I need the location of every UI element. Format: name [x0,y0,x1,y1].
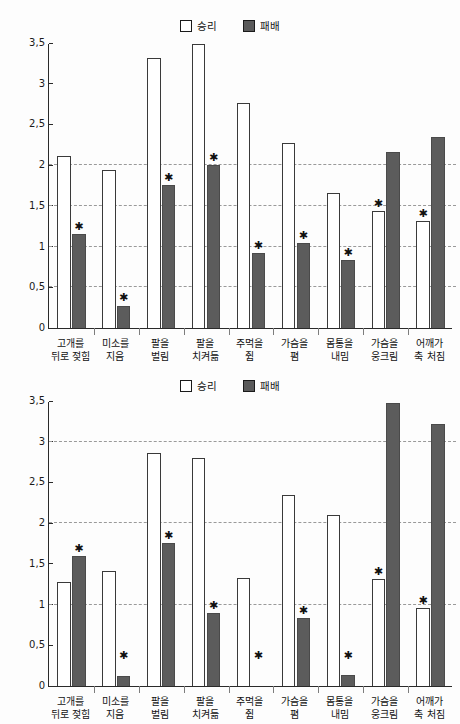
legend-swatch-win-icon [180,20,192,32]
significance-star: ✱ [162,530,175,541]
bar-lose [207,613,220,686]
significance-star: ✱ [297,230,310,241]
x-axis-group-separator [273,686,274,693]
x-axis-group-separator [94,686,95,693]
x-axis-label: 팔을 치켜듦 [183,338,228,363]
bar-lose [72,556,85,686]
x-axis-label: 어깨가 축 처짐 [407,696,452,721]
bar-win [147,453,160,686]
y-axis-tick-label: 1,5 [29,200,49,210]
significance-star: ✱ [117,650,130,661]
bar-lose [386,152,399,328]
x-axis-labels-bottom: 고개를 뒤로 젖힘미소를 지음팔을 벌림팔을 치켜듦주먹을 쥠가슴을 폄몸통을 … [48,694,460,724]
significance-star: ✱ [372,198,385,209]
legend-item-lose: 패배 [243,380,280,392]
legend-item-lose: 패배 [243,20,280,32]
plot-axes-top: 00,511,522,533,5✱✱✱✱✱✱✱✱✱ [48,44,452,329]
y-axis-tick-mark [49,328,53,329]
y-axis-tick-label: 0 [39,681,49,691]
x-axis-group-separator [408,328,409,335]
bar-win [372,211,385,328]
y-axis-tick-label: 2 [39,160,49,170]
x-axis-label: 몸통을 내밈 [317,696,362,721]
x-axis-label: 가슴을 웅크림 [362,696,407,721]
legend-label-lose: 패배 [260,21,280,32]
bar-lose [431,424,444,686]
significance-star: ✱ [72,543,85,554]
x-axis-group-separator [94,328,95,335]
x-axis-label: 가슴을 웅크림 [362,338,407,363]
chart-legend-bottom: 승리 패배 [0,378,460,394]
chart-panel-top: 승리 패배 00,511,522,533,5✱✱✱✱✱✱✱✱✱ 고개를 뒤로 젖… [0,0,460,370]
bar-win [237,103,250,328]
bar-win [57,582,70,686]
x-axis-label: 팔을 벌림 [138,338,183,363]
bar-win [416,608,429,686]
x-axis-label: 가슴을 폄 [272,338,317,363]
y-axis-tick-mark [49,482,53,483]
bar-lose [72,234,85,328]
x-axis-label: 팔을 치켜듦 [183,696,228,721]
significance-star: ✱ [416,595,429,606]
bar-lose [117,306,130,328]
significance-star: ✱ [341,650,354,661]
bar-win [192,458,205,686]
x-axis-group-separator [363,328,364,335]
significance-star: ✱ [252,650,265,661]
bar-lose [386,403,399,686]
legend-swatch-win-icon [180,380,192,392]
legend-item-win: 승리 [180,380,217,392]
x-axis-group-separator [229,686,230,693]
chart-panel-bottom: 승리 패배 00,511,522,533,5✱✱✱✱✱✱✱✱✱ 고개를 뒤로 젖… [0,370,460,724]
figure-page: 승리 패배 00,511,522,533,5✱✱✱✱✱✱✱✱✱ 고개를 뒤로 젖… [0,0,460,724]
bar-lose [117,676,130,686]
x-axis-label: 주먹을 쥠 [228,696,273,721]
x-axis-group-separator [408,686,409,693]
bar-lose [252,253,265,328]
bar-win [102,170,115,328]
y-axis-tick-label: 1,5 [29,558,49,568]
significance-star: ✱ [252,240,265,251]
legend-label-win: 승리 [197,381,217,392]
bar-lose [162,543,175,686]
plot-axes-bottom: 00,511,522,533,5✱✱✱✱✱✱✱✱✱ [48,402,452,687]
y-axis-tick-label: 0,5 [29,640,49,650]
plot-area-top: 00,511,522,533,5✱✱✱✱✱✱✱✱✱ [48,44,452,329]
significance-star: ✱ [372,566,385,577]
y-axis-tick-mark [49,563,53,564]
bar-lose [162,185,175,328]
y-axis-tick-mark [49,124,53,125]
x-axis-label: 몸통을 내밈 [317,338,362,363]
x-axis-label: 팔을 벌림 [138,696,183,721]
x-axis-group-separator [318,328,319,335]
bar-win [327,193,340,328]
x-axis-label: 미소를 지음 [93,338,138,363]
bar-win [282,143,295,328]
x-axis-group-separator [229,328,230,335]
bar-win [147,58,160,328]
bar-win [282,495,295,686]
significance-star: ✱ [117,292,130,303]
y-axis-tick-label: 3 [39,78,49,88]
legend-label-lose: 패배 [260,381,280,392]
y-axis-tick-label: 3,5 [29,38,49,48]
significance-star: ✱ [341,247,354,258]
bar-win [327,515,340,686]
significance-star: ✱ [72,221,85,232]
x-axis-group-separator [184,686,185,693]
significance-star: ✱ [207,152,220,163]
significance-star: ✱ [297,605,310,616]
y-axis-tick-label: 2,5 [29,119,49,129]
legend-swatch-lose-icon [243,20,255,32]
bar-win [237,578,250,686]
bar-win [57,156,70,328]
significance-star: ✱ [162,172,175,183]
bar-win [102,571,115,686]
legend-item-win: 승리 [180,20,217,32]
chart-legend-top: 승리 패배 [0,18,460,34]
y-axis-tick-label: 3,5 [29,396,49,406]
bar-lose [341,260,354,328]
y-axis-tick-label: 0,5 [29,282,49,292]
x-axis-labels-top: 고개를 뒤로 젖힘미소를 지음팔을 벌림팔을 치켜듦주먹을 쥠가슴을 폄몸통을 … [48,336,460,366]
bar-lose [207,165,220,328]
